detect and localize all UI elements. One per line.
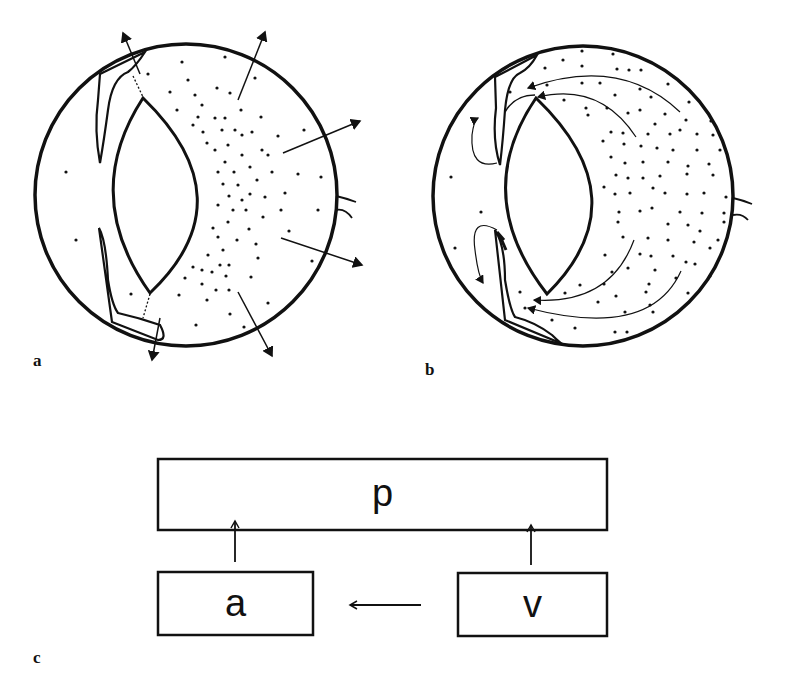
- eye-diagram-a: [35, 32, 362, 360]
- arrow-icon: [528, 76, 680, 112]
- panel-label-a: a: [33, 351, 42, 371]
- panel-label-c: c: [33, 648, 41, 668]
- box-v-label: v: [458, 579, 607, 629]
- figure-canvas: [0, 0, 788, 681]
- box-a-label: a: [158, 578, 313, 628]
- arrow-icon: [238, 32, 265, 100]
- eye-diagram-b: [433, 46, 752, 346]
- box-p-label: p: [158, 468, 607, 518]
- lens-b: [506, 98, 592, 294]
- optic-nerve-a: [336, 196, 356, 218]
- optic-nerve-b: [733, 198, 752, 220]
- panel-label-b: b: [425, 360, 434, 380]
- arrow-icon: [474, 226, 497, 284]
- zonule-upper-a: [133, 76, 143, 97]
- zonule-lower-a: [143, 294, 150, 318]
- lens-a: [113, 98, 197, 293]
- arrow-icon: [472, 118, 497, 164]
